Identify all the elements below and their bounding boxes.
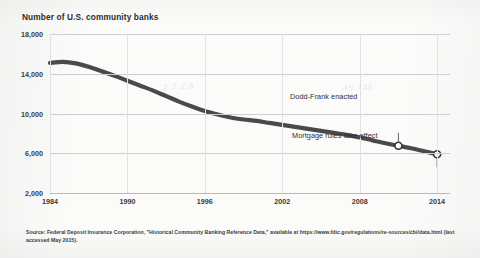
gridline-x-1996: [205, 34, 206, 193]
y-axis-label-2000: 2,000: [25, 189, 43, 198]
chart-title: Number of U.S. community banks: [22, 12, 158, 22]
gridline-y-10000: [50, 114, 450, 115]
plot-area: 18,00014,00010,0006,0002,000198419901996…: [50, 34, 450, 193]
y-axis-label-6000: 6,000: [25, 149, 43, 158]
gridline-y-18000: [50, 34, 450, 35]
x-axis-label-2008: 2008: [352, 197, 368, 206]
gridline-x-1990: [127, 34, 128, 193]
annotation-label-mortgage-rules: Mortgage rules take effect: [292, 131, 378, 140]
annotation-label-dodd-frank: Dodd-Frank enacted: [290, 92, 357, 101]
x-axis-label-1990: 1990: [119, 197, 135, 206]
gridline-x-1984: [50, 34, 51, 193]
x-axis-label-2014: 2014: [429, 197, 445, 206]
y-axis-label-10000: 10,000: [21, 109, 43, 118]
marker-dodd-frank: [395, 142, 402, 149]
series-path: [50, 62, 437, 154]
x-axis-label-1996: 1996: [197, 197, 213, 206]
y-axis-label-14000: 14,000: [21, 69, 43, 78]
gridline-y-6000: [50, 153, 450, 154]
gridline-y-14000: [50, 74, 450, 75]
x-axis-label-2002: 2002: [274, 197, 290, 206]
gridline-x-2008: [360, 34, 361, 193]
chart-figure: Number of U.S. community banks 2,2,2,8 4…: [0, 0, 480, 258]
gridline-x-2014: [437, 34, 438, 193]
gridline-x-2002: [282, 34, 283, 193]
x-axis-label-1984: 1984: [42, 197, 58, 206]
y-axis-label-18000: 18,000: [21, 30, 43, 39]
gridline-y-2000: [50, 193, 450, 194]
source-note: Source: Federal Deposit Insurance Corpor…: [26, 228, 456, 245]
